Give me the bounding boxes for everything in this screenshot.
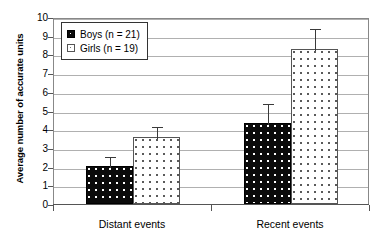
bar-boys-distant-events (86, 166, 133, 204)
y-axis-tick-label: 4 (28, 125, 48, 135)
x-axis-category-label: Distant events (99, 218, 166, 230)
bar-chart: Average number of accurate units 0123456… (0, 0, 389, 247)
x-axis-tick-mark (53, 205, 54, 211)
error-bar-stem (157, 127, 158, 139)
bar-girls-recent-events (291, 49, 338, 204)
y-axis-tick-label: 1 (28, 181, 48, 191)
y-axis-tick-label: 5 (28, 107, 48, 117)
chart-legend: Boys (n = 21)Girls (n = 19) (61, 22, 148, 60)
y-axis-tick-label: 6 (28, 88, 48, 98)
white-dotted-swatch (67, 44, 75, 52)
legend-item-label: Girls (n = 19) (80, 43, 138, 54)
y-axis-tick-labels: 012345678910 (22, 0, 48, 247)
x-axis-tick-mark (369, 205, 370, 211)
legend-item: Girls (n = 19) (67, 41, 140, 55)
y-axis-tick-label: 9 (28, 32, 48, 42)
y-axis-tick-label: 3 (28, 144, 48, 154)
y-axis-tick-label: 0 (28, 200, 48, 210)
bar-boys-recent-events (244, 123, 291, 204)
error-bar-stem (268, 104, 269, 125)
y-axis-tick-label: 10 (28, 13, 48, 23)
y-axis-tick-label: 7 (28, 69, 48, 79)
error-bar-cap (152, 127, 163, 128)
bar-girls-distant-events (133, 137, 180, 204)
error-bar-cap (263, 104, 274, 105)
legend-item: Boys (n = 21) (67, 27, 140, 41)
black-dotted-swatch (67, 30, 75, 38)
x-axis-category-label: Recent events (256, 218, 323, 230)
gridline (54, 19, 368, 20)
error-bar-stem (110, 157, 111, 167)
y-axis-tick-label: 8 (28, 50, 48, 60)
error-bar-cap (310, 29, 321, 30)
error-bar-cap (105, 157, 116, 158)
y-axis-tick-label: 2 (28, 163, 48, 173)
error-bar-stem (315, 29, 316, 51)
x-axis-tick-mark (211, 205, 212, 211)
legend-item-label: Boys (n = 21) (80, 29, 140, 40)
